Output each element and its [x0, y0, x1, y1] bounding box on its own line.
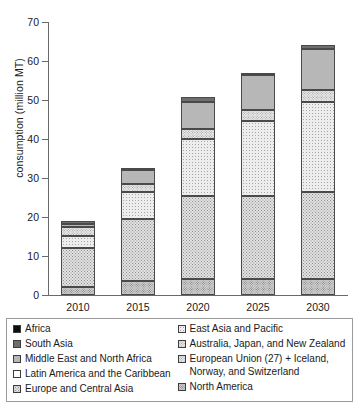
legend-item-european-union-27-iceland-norway-and-switzerland[interactable]: European Union (27) + Iceland, Norway, a… — [178, 353, 348, 378]
legend-swatch-icon — [13, 340, 21, 348]
legend-column-right: East Asia and PacificAustralia, Japan, a… — [178, 323, 348, 396]
bar-segment-european-union — [181, 129, 215, 139]
legend-item-label: East Asia and Pacific — [190, 323, 283, 336]
legend-item-label: South Asia — [25, 338, 73, 351]
bar-segment-south-asia — [121, 168, 155, 170]
bar-2010 — [61, 221, 95, 295]
bar-segment-europe-central-asia — [121, 219, 155, 281]
bar-2025 — [241, 73, 275, 295]
bar-segment-europe-central-asia — [301, 192, 335, 280]
legend-swatch-icon — [13, 370, 21, 378]
bar-segment-european-union — [121, 184, 155, 192]
legend-item-label: European Union (27) + Iceland, Norway, a… — [190, 353, 329, 378]
y-tick — [42, 295, 48, 296]
y-tick-label: 60 — [27, 56, 39, 66]
legend-item-label: Africa — [25, 323, 51, 336]
legend-swatch-icon — [178, 355, 186, 363]
legend-item-europe-and-central-asia[interactable]: Europe and Central Asia — [13, 383, 172, 396]
bar-segment-europe-central-asia — [61, 248, 95, 287]
y-tick-label: 40 — [27, 134, 39, 144]
bar-segment-middle-east-north-africa — [241, 75, 275, 109]
bar-segment-european-union — [241, 110, 275, 122]
y-tick — [42, 256, 48, 257]
legend-item-africa[interactable]: Africa — [13, 323, 172, 336]
bar-2015 — [121, 168, 155, 295]
legend-item-south-asia[interactable]: South Asia — [13, 338, 172, 351]
y-tick — [42, 139, 48, 140]
legend-swatch-icon — [13, 355, 21, 363]
legend-swatch-icon — [178, 325, 186, 333]
y-axis-title: consumption (million MT) — [13, 23, 25, 213]
y-tick — [42, 61, 48, 62]
legend-item-australia-japan-and-new-zealand[interactable]: Australia, Japan, and New Zealand — [178, 338, 348, 351]
chart-figure: consumption (million MT) 010203040506070… — [0, 0, 359, 408]
legend-swatch-icon — [178, 340, 186, 348]
y-tick-label: 50 — [27, 95, 39, 105]
legend-item-label: Australia, Japan, and New Zealand — [190, 338, 346, 351]
legend-item-label: Latin America and the Caribbean — [25, 368, 171, 381]
y-tick — [42, 22, 48, 23]
bar-2030 — [301, 45, 335, 295]
y-tick-label: 20 — [27, 212, 39, 222]
bar-segment-east-asia-pacific — [61, 236, 95, 248]
bar-segment-south-asia — [181, 97, 215, 102]
bar-segment-east-asia-pacific — [181, 139, 215, 196]
x-axis-line — [42, 295, 348, 296]
y-tick-label: 10 — [27, 251, 39, 261]
bar-segment-european-union — [301, 90, 335, 102]
legend-item-label: Europe and Central Asia — [25, 383, 133, 396]
legend: AfricaSouth AsiaMiddle East and North Af… — [6, 318, 353, 402]
y-tick-label: 30 — [27, 173, 39, 183]
y-tick — [42, 178, 48, 179]
bar-segment-north-america — [121, 281, 155, 295]
bar-segment-north-america — [241, 279, 275, 295]
y-tick — [42, 100, 48, 101]
y-tick — [42, 217, 48, 218]
bar-segment-east-asia-pacific — [241, 121, 275, 195]
x-tick-label: 2020 — [168, 301, 228, 313]
bar-segment-europe-central-asia — [241, 196, 275, 280]
legend-column-left: AfricaSouth AsiaMiddle East and North Af… — [13, 323, 172, 396]
bar-segment-north-america — [181, 279, 215, 295]
bar-segment-european-union — [61, 227, 95, 236]
bar-segment-middle-east-north-africa — [181, 102, 215, 129]
legend-swatch-icon — [13, 385, 21, 393]
x-tick-label: 2030 — [288, 301, 348, 313]
bar-segment-south-asia — [61, 221, 95, 224]
bar-segment-europe-central-asia — [181, 196, 215, 280]
legend-item-label: Middle East and North Africa — [25, 353, 152, 366]
legend-item-label: North America — [190, 381, 253, 394]
plot-area: consumption (million MT) 010203040506070… — [0, 0, 359, 316]
x-tick-label: 2025 — [228, 301, 288, 313]
y-tick-label: 0 — [33, 290, 39, 300]
bar-segment-north-america — [61, 287, 95, 295]
bar-segment-middle-east-north-africa — [301, 49, 335, 90]
x-tick-label: 2010 — [48, 301, 108, 313]
legend-item-east-asia-and-pacific[interactable]: East Asia and Pacific — [178, 323, 348, 336]
x-tick-label: 2015 — [108, 301, 168, 313]
y-tick-label: 70 — [27, 17, 39, 27]
legend-swatch-icon — [13, 325, 21, 333]
legend-item-middle-east-and-north-africa[interactable]: Middle East and North Africa — [13, 353, 172, 366]
bar-segment-north-america — [301, 279, 335, 295]
axes: 010203040506070 20102015202020252030 — [48, 22, 348, 295]
legend-swatch-icon — [178, 383, 186, 391]
bar-segment-south-asia — [301, 45, 335, 49]
y-axis-line — [48, 22, 49, 295]
bar-segment-middle-east-north-africa — [61, 224, 95, 227]
legend-item-latin-america-and-the-caribbean[interactable]: Latin America and the Caribbean — [13, 368, 172, 381]
bar-segment-east-asia-pacific — [301, 102, 335, 192]
bar-2020 — [181, 97, 215, 295]
bar-segment-south-asia — [241, 73, 275, 76]
bar-segment-middle-east-north-africa — [121, 170, 155, 184]
legend-item-north-america[interactable]: North America — [178, 381, 348, 394]
bar-segment-east-asia-pacific — [121, 192, 155, 219]
